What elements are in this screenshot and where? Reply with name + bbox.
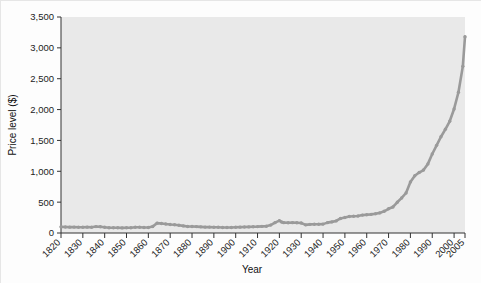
data-point (404, 191, 407, 194)
data-point (391, 205, 394, 208)
data-point (208, 225, 211, 228)
data-point (247, 225, 250, 228)
figure-container: 05001,0001,5002,0002,5003,0003,500 18201… (0, 0, 481, 283)
data-point (72, 225, 75, 228)
data-point (304, 223, 307, 226)
data-point (107, 226, 110, 229)
data-point (260, 225, 263, 228)
x-tick-label: 1910 (236, 237, 259, 260)
data-point (286, 221, 289, 224)
data-point (112, 226, 115, 229)
data-point (343, 216, 346, 219)
y-tick-label: 500 (38, 197, 54, 208)
data-point (330, 220, 333, 223)
x-tick-label: 1970 (367, 237, 390, 260)
x-tick-label: 1880 (171, 237, 194, 260)
data-point (59, 225, 62, 228)
data-point (352, 215, 355, 218)
data-point (273, 221, 276, 224)
plot-area-background (61, 17, 465, 233)
data-point (134, 226, 137, 229)
data-point (439, 135, 442, 138)
data-point (374, 212, 377, 215)
data-point (334, 219, 337, 222)
x-tick-label: 1820 (40, 237, 63, 260)
data-point (125, 226, 128, 229)
data-point (234, 226, 237, 229)
data-point (356, 214, 359, 217)
x-tick-label: 1870 (149, 237, 172, 260)
data-point (120, 226, 123, 229)
data-point (265, 225, 268, 228)
data-point (94, 225, 97, 228)
data-point (417, 171, 420, 174)
data-point (413, 174, 416, 177)
data-point (444, 128, 447, 131)
data-point (199, 225, 202, 228)
data-point (448, 120, 451, 123)
data-point (138, 226, 141, 229)
data-point (203, 225, 206, 228)
data-point (251, 225, 254, 228)
data-point (321, 222, 324, 225)
data-point (461, 65, 464, 68)
data-point (151, 225, 154, 228)
data-point (452, 107, 455, 110)
data-point (221, 226, 224, 229)
data-point (422, 168, 425, 171)
data-point (142, 226, 145, 229)
data-point (212, 226, 215, 229)
data-point (182, 224, 185, 227)
x-tick-label: 1950 (324, 237, 347, 260)
data-point (300, 221, 303, 224)
data-point (387, 207, 390, 210)
data-point (230, 226, 233, 229)
data-point (269, 223, 272, 226)
y-tick-label: 2,000 (30, 104, 54, 115)
data-point (243, 225, 246, 228)
data-point (291, 221, 294, 224)
y-tick-label: 1,500 (30, 135, 54, 146)
y-tick-label: 1,000 (30, 166, 54, 177)
data-point (64, 225, 67, 228)
data-point (308, 223, 311, 226)
data-point (195, 225, 198, 228)
data-point (317, 223, 320, 226)
x-axis-tick-labels: 1820183018401850186018701880189019001910… (40, 237, 467, 260)
x-tick-label: 1980 (389, 237, 412, 260)
data-point (256, 225, 259, 228)
y-axis-ticks (57, 17, 61, 233)
x-tick-label: 1850 (105, 237, 128, 260)
data-point (190, 225, 193, 228)
x-tick-label: 1840 (83, 237, 106, 260)
data-point (313, 223, 316, 226)
x-tick-label: 1920 (258, 237, 281, 260)
y-tick-label: 2,500 (30, 73, 54, 84)
data-point (155, 221, 158, 224)
price-level-line-chart: 05001,0001,5002,0002,5003,0003,500 18201… (0, 0, 481, 283)
data-point (295, 221, 298, 224)
x-tick-label: 1960 (345, 237, 368, 260)
data-point (68, 225, 71, 228)
data-point (238, 225, 241, 228)
data-point (348, 215, 351, 218)
data-point (177, 224, 180, 227)
x-tick-label: 1900 (214, 237, 237, 260)
data-point (339, 217, 342, 220)
data-point (396, 201, 399, 204)
data-point (409, 180, 412, 183)
y-axis-tick-labels: 05001,0001,5002,0002,5003,0003,500 (30, 11, 54, 238)
y-tick-label: 3,000 (30, 42, 54, 53)
x-axis-title: Year (242, 264, 263, 275)
data-point (369, 213, 372, 216)
data-point (326, 221, 329, 224)
x-tick-label: 1940 (302, 237, 325, 260)
data-point (365, 213, 368, 216)
data-point (81, 226, 84, 229)
data-point (378, 211, 381, 214)
x-tick-label: 1930 (280, 237, 303, 260)
y-axis-title: Price level ($) (7, 94, 18, 155)
x-tick-label: 1860 (127, 237, 150, 260)
x-tick-label: 1890 (193, 237, 216, 260)
data-point (164, 222, 167, 225)
